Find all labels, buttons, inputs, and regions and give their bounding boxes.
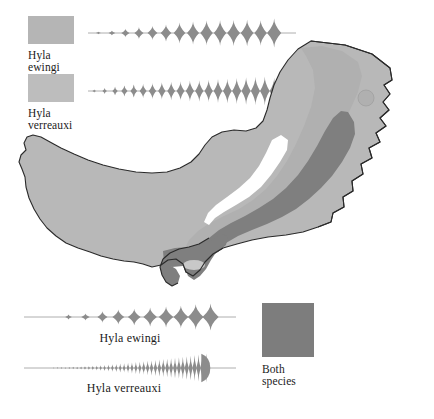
waveform-pulse — [119, 364, 122, 373]
waveform-pulse — [88, 366, 90, 370]
waveform-pulse — [173, 358, 177, 379]
waveform-pulse — [97, 311, 107, 322]
waveform-pulse — [115, 364, 118, 372]
waveform-pulse — [109, 31, 116, 36]
range-map-svg — [0, 36, 434, 292]
waveform-pulse — [96, 32, 101, 34]
waveform-pulse — [154, 360, 157, 376]
both-species-range-swatch — [262, 303, 314, 357]
waveform-pulse — [65, 315, 72, 320]
waveform-pulse — [203, 304, 219, 331]
waveform-allopatric-hyla-ewingi — [24, 302, 236, 332]
waveform-pulse — [161, 359, 165, 377]
waveform-pulse — [146, 361, 149, 375]
waveform-pulse — [84, 366, 86, 370]
waveform-pulse — [142, 361, 145, 374]
waveform-pulse — [53, 367, 54, 368]
waveform-pulse — [111, 364, 114, 371]
waveform-pulse — [107, 365, 109, 372]
waveform-pulse — [130, 362, 133, 373]
waveform-pulse — [57, 367, 58, 368]
waveform-pulse — [143, 308, 157, 327]
waveform-svg-allopatric-ewingi — [24, 302, 236, 332]
waveform-pulse-group — [53, 354, 210, 383]
waveform-pulse — [159, 306, 173, 327]
waveform-pulse — [103, 365, 105, 371]
waveform-pulse — [80, 366, 82, 369]
waveform-pulse — [81, 313, 89, 320]
map-inclusion-bay — [183, 260, 205, 270]
waveform-pulse — [76, 367, 78, 370]
waveform-pulse — [189, 356, 193, 381]
waveform-pulse — [112, 309, 124, 324]
waveform-pulse — [181, 357, 185, 380]
waveform-pulse — [96, 365, 98, 370]
waveform-pulse — [92, 366, 94, 371]
waveform-caption-hyla-ewingi: Hyla ewingi — [30, 331, 230, 346]
legend-label-both-species: Both species — [262, 363, 328, 388]
waveform-pulse — [99, 365, 101, 371]
waveform-caption-hyla-verreauxi: Hyla verreauxi — [24, 381, 224, 396]
waveform-pulse — [177, 357, 181, 379]
waveform-pulse — [127, 363, 130, 373]
waveform-pulse — [169, 358, 173, 378]
waveform-pulse — [165, 359, 169, 378]
waveform-pulse — [68, 367, 70, 369]
waveform-pulse — [188, 304, 204, 329]
waveform-pulse — [196, 355, 200, 382]
waveform-pulse — [138, 362, 141, 375]
waveform-pulse — [134, 362, 137, 374]
waveform-pulse — [173, 306, 188, 329]
waveform-pulse — [158, 360, 161, 377]
legend-entry-both-species: Both species — [262, 303, 328, 388]
map-inclusion-circle-northeast — [358, 90, 374, 106]
range-map — [0, 36, 434, 292]
legend-both-line1: Both — [262, 363, 328, 375]
waveform-svg-allopatric-verreauxi — [24, 352, 236, 384]
waveform-pulse — [192, 355, 196, 381]
waveform-pulse — [123, 363, 126, 373]
waveform-pulse — [61, 367, 63, 368]
waveform-pulse — [185, 356, 189, 380]
waveform-allopatric-hyla-verreauxi — [24, 352, 236, 384]
waveform-pulse — [150, 360, 153, 375]
legend-both-line2: species — [262, 375, 328, 387]
waveform-pulse — [72, 367, 74, 369]
waveform-envelope-cap — [201, 354, 210, 382]
waveform-pulse — [128, 309, 141, 326]
waveform-pulse — [65, 367, 67, 369]
figure-root: Hyla ewingi Hyla verreauxi — [0, 0, 434, 419]
